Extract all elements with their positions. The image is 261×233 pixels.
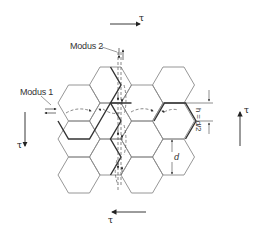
hexagon-cell	[58, 157, 100, 193]
hexagon-cell	[58, 85, 100, 121]
hexagon-cell	[90, 139, 132, 175]
tau-top-label: τ	[139, 13, 144, 23]
hexagon-cells	[58, 67, 195, 193]
mode2-label: Modus 2	[70, 41, 103, 51]
hexagon-cell	[121, 121, 163, 157]
hexagon-cell	[90, 103, 132, 139]
dimension-d-label: d	[174, 152, 179, 162]
hexagon-cell	[153, 67, 195, 103]
tau-right-label: τ	[244, 105, 249, 115]
tau-left-label: τ	[17, 140, 22, 150]
mode1-label: Modus 1	[20, 87, 53, 97]
honeycomb-svg	[0, 0, 261, 233]
tau-bottom-label: τ	[108, 215, 113, 225]
tau-arrows	[25, 24, 240, 212]
honeycomb-diagram: Modus 2 Modus 1 τ τ τ τ h = d/2 d	[0, 0, 261, 233]
mode1-arrows	[45, 109, 56, 113]
dimension-h-label: h = d/2	[194, 108, 203, 131]
hexagon-cell	[121, 157, 163, 193]
hexagon-cell	[90, 67, 132, 103]
